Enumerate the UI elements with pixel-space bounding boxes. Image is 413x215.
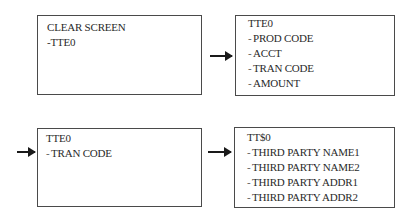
item-label: THIRD PARTY NAME1 — [252, 146, 360, 158]
list-item: -AMOUNT — [248, 76, 314, 91]
box-lines: TTE0 -TRAN CODE — [46, 131, 112, 161]
box-tte0-main: TTE0 -PROD CODE -ACCT -TRAN CODE -AMOUNT — [235, 15, 395, 96]
arrow-right-icon — [17, 151, 35, 153]
box-header: TTE0 — [46, 131, 112, 146]
item-label: TRAN CODE — [51, 147, 112, 159]
list-item: -THIRD PARTY NAME1 — [247, 145, 360, 160]
box-tte0-tran: TTE0 -TRAN CODE — [37, 128, 202, 207]
list-item: -PROD CODE — [248, 31, 314, 46]
item-label: PROD CODE — [253, 32, 313, 44]
item-label: TTE0 — [50, 36, 75, 48]
box-clear-screen: CLEAR SCREEN -TTE0 — [37, 15, 202, 95]
item-label: THIRD PARTY ADDR1 — [252, 176, 358, 188]
list-item: -THIRD PARTY ADDR2 — [247, 190, 360, 205]
item-label: THIRD PARTY ADDR2 — [252, 191, 358, 203]
list-item: -ACCT — [248, 46, 314, 61]
box-header: TT$0 — [247, 130, 360, 145]
box-tts0: TT$0 -THIRD PARTY NAME1 -THIRD PARTY NAM… — [234, 127, 395, 208]
list-item: -THIRD PARTY ADDR1 — [247, 175, 360, 190]
box-header: CLEAR SCREEN — [47, 20, 126, 35]
arrow-right-icon — [208, 151, 231, 153]
list-item: -TTE0 — [47, 35, 126, 50]
item-label: AMOUNT — [253, 77, 300, 89]
box-lines: TTE0 -PROD CODE -ACCT -TRAN CODE -AMOUNT — [248, 16, 314, 91]
list-item: -THIRD PARTY NAME2 — [247, 160, 360, 175]
arrow-right-icon — [210, 55, 232, 57]
list-item: -TRAN CODE — [46, 146, 112, 161]
item-label: TRAN CODE — [253, 62, 314, 74]
list-item: -TRAN CODE — [248, 61, 314, 76]
item-label: THIRD PARTY NAME2 — [252, 161, 360, 173]
box-header: TTE0 — [248, 16, 314, 31]
box-lines: CLEAR SCREEN -TTE0 — [47, 20, 126, 50]
item-label: ACCT — [253, 47, 282, 59]
box-lines: TT$0 -THIRD PARTY NAME1 -THIRD PARTY NAM… — [247, 130, 360, 205]
